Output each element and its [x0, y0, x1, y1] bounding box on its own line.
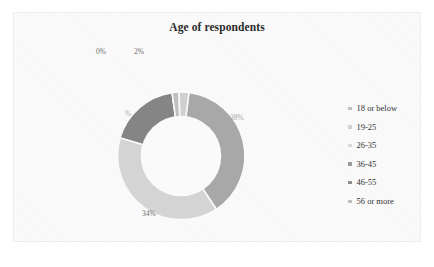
- legend-label: 36-45: [357, 160, 377, 169]
- legend-item-56-or-more[interactable]: 56 or more: [348, 192, 421, 211]
- data-label-38pct: 38%: [230, 114, 244, 122]
- legend-item-19-25[interactable]: 19-25: [348, 118, 421, 137]
- legend-item-36-45[interactable]: 36-45: [348, 155, 421, 174]
- donut-chart: 0% 2% 38% 34% %: [106, 81, 256, 231]
- donut-chart-svg: [106, 81, 256, 231]
- chart-figure: Age of respondents 0% 2% 38% 34% % 18 or…: [13, 12, 421, 242]
- legend-label: 46-55: [357, 178, 377, 187]
- data-label-0pct: 0%: [96, 48, 106, 56]
- legend-swatch-icon: [348, 181, 352, 185]
- legend-label: 18 or below: [357, 104, 398, 113]
- legend-label: 26-35: [357, 141, 377, 150]
- legend-item-18-or-below[interactable]: 18 or below: [348, 99, 421, 118]
- data-label-26pct: %: [125, 110, 131, 118]
- donut-hole: [141, 116, 222, 197]
- data-label-2pct: 2%: [134, 48, 144, 56]
- chart-legend: 18 or below 19-25 26-35 36-45 46-55 56 o…: [348, 99, 421, 211]
- chart-title: Age of respondents: [14, 21, 420, 33]
- data-label-34pct: 34%: [142, 210, 156, 218]
- legend-swatch-icon: [348, 200, 352, 204]
- legend-label: 19-25: [357, 123, 377, 132]
- legend-swatch-icon: [348, 107, 352, 111]
- legend-item-46-55[interactable]: 46-55: [348, 173, 421, 192]
- legend-swatch-icon: [348, 162, 352, 166]
- legend-item-26-35[interactable]: 26-35: [348, 136, 421, 155]
- legend-swatch-icon: [348, 125, 352, 129]
- legend-label: 56 or more: [357, 197, 394, 206]
- legend-swatch-icon: [348, 144, 352, 148]
